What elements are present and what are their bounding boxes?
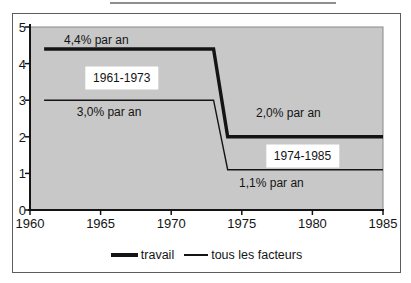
y-tick-label: 4 (4, 57, 26, 70)
y-tick-label: 1 (4, 167, 26, 180)
annotation-rate-facteurs-before: 3,0% par an (77, 106, 142, 119)
chart-figure: 0 1 2 3 4 5 1960 1965 1970 1975 1980 198… (0, 0, 411, 283)
y-tick-label: 2 (4, 130, 26, 143)
chart-legend: travail tous les facteurs (12, 246, 401, 264)
thin-line-swatch-icon (184, 254, 208, 256)
legend-item-travail: travail (111, 249, 174, 262)
x-tick-label: 1960 (16, 217, 45, 230)
y-tick-label: 5 (4, 21, 26, 34)
annotation-period-before: 1961-1973 (85, 67, 158, 90)
legend-label: travail (141, 249, 174, 262)
annotation-rate-facteurs-after: 1,1% par an (239, 176, 304, 189)
annotation-rate-travail-after: 2,0% par an (256, 106, 321, 119)
y-tick-label: 3 (4, 94, 26, 107)
x-tick-label: 1985 (369, 217, 398, 230)
annotation-period-after: 1974-1985 (266, 144, 339, 167)
legend-label: tous les facteurs (211, 249, 302, 262)
y-tick-label: 0 (4, 204, 26, 217)
annotation-rate-travail-before: 4,4% par an (64, 34, 129, 47)
thick-line-swatch-icon (111, 253, 138, 257)
x-tick-label: 1970 (157, 217, 186, 230)
x-tick-label: 1980 (298, 217, 327, 230)
plot-lines (0, 0, 411, 283)
x-tick-label: 1975 (227, 217, 256, 230)
x-tick-label: 1965 (86, 217, 115, 230)
legend-item-tous-les-facteurs: tous les facteurs (184, 249, 302, 262)
